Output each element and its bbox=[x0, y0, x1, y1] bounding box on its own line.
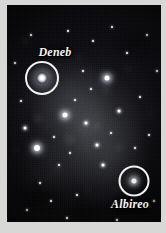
marker-label-albireo: Albireo bbox=[111, 198, 149, 210]
marker-circle-albireo bbox=[119, 166, 150, 197]
figure-plate: DenebAlbireo bbox=[0, 0, 166, 233]
marker-label-deneb: Deneb bbox=[39, 46, 72, 58]
star-field-photo: DenebAlbireo bbox=[7, 5, 161, 222]
marker-circle-deneb bbox=[25, 61, 59, 95]
